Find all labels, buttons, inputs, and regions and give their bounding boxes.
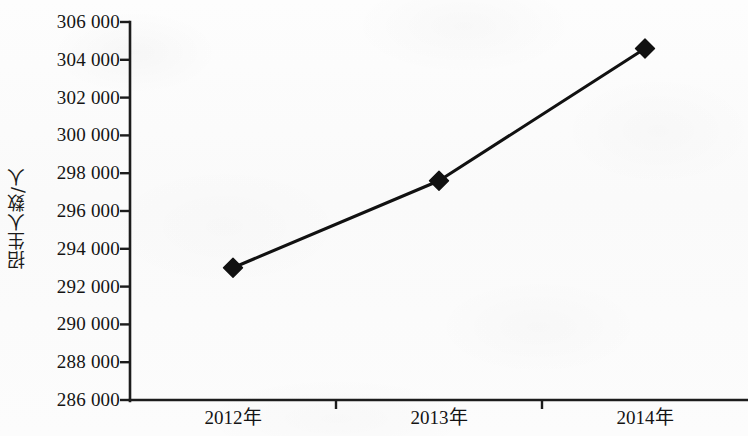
axis-lines xyxy=(130,22,748,401)
chart-page: 招生人数/人 306 000304 000302 000300 000298 0… xyxy=(0,0,748,436)
y-axis-tick-marks xyxy=(120,22,130,400)
data-point-markers xyxy=(224,39,655,277)
data-point-marker xyxy=(636,39,655,58)
data-series-line xyxy=(233,49,645,268)
series-polyline xyxy=(233,49,645,268)
data-point-marker xyxy=(430,171,449,190)
plot-area xyxy=(0,0,748,436)
x-axis-tick-marks xyxy=(336,400,542,409)
data-point-marker xyxy=(224,258,243,277)
